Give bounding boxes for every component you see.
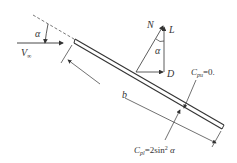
- plate-end: [222, 125, 224, 129]
- drag-label: D: [166, 68, 175, 79]
- force-alpha-arc: [156, 39, 164, 42]
- freestream-label: V∞: [21, 47, 32, 59]
- plate-lower-edge: [74, 43, 222, 129]
- lower-cp-label: Cpl=2sin2 α: [134, 145, 175, 156]
- alpha-label: α: [35, 28, 41, 39]
- chord-ext-right: [212, 131, 221, 147]
- upper-cp-label: Cpu=0.: [191, 67, 215, 78]
- upper-cp-leader: [184, 80, 196, 108]
- force-alpha-label: α: [155, 45, 161, 56]
- chord-ext-left: [61, 45, 72, 63]
- lift-label: L: [168, 24, 175, 35]
- chord-dimension-line: [68, 60, 100, 84]
- chord-label: b: [122, 89, 127, 100]
- chord-dimension-line-right: [125, 98, 216, 143]
- lower-cp-leader: [165, 110, 180, 140]
- normal-label: N: [146, 19, 155, 30]
- alpha-arc: [45, 24, 48, 43]
- newtonian-plate-diagram: α V∞ b N L α D Cpu=0. Cpl=2sin2 α: [0, 0, 237, 163]
- plate-start: [74, 39, 75, 43]
